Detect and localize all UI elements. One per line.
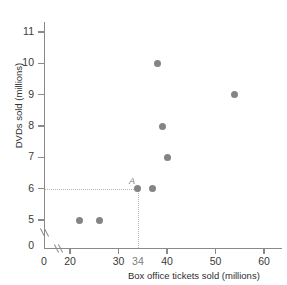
data-point-a: [134, 185, 141, 192]
y-axis-tick-label: 0: [12, 240, 34, 251]
y-axis-tick: [38, 188, 44, 189]
guide-line-vertical: [138, 189, 139, 248]
y-axis-tick: [38, 219, 44, 220]
data-point: [164, 154, 171, 161]
data-point: [231, 91, 238, 98]
data-point: [96, 217, 103, 224]
x-axis-tick-label: 20: [56, 256, 84, 267]
y-axis-tick: [38, 94, 44, 95]
y-axis-tick-label: 5: [12, 214, 34, 225]
x-axis-tick: [263, 248, 264, 254]
data-point: [159, 123, 166, 130]
data-point: [149, 185, 156, 192]
x-axis-tick-label: 50: [202, 256, 230, 267]
y-axis-tick: [38, 157, 44, 158]
y-axis-line: [44, 22, 45, 232]
guide-line-horizontal: [45, 189, 138, 190]
scatter-plot: 05678910110203034405060 A DVDs sold (mil…: [0, 0, 287, 285]
x-axis-tick-label: 60: [250, 256, 278, 267]
data-point-label-a: A: [129, 176, 135, 186]
y-axis-title: DVDs sold (millions): [13, 26, 24, 186]
y-axis-tick: [38, 31, 44, 32]
x-axis-tick: [166, 248, 167, 254]
data-point: [154, 60, 161, 67]
data-point: [76, 217, 83, 224]
x-axis-tick: [69, 248, 70, 254]
x-axis-tick-label: 40: [153, 256, 181, 267]
x-axis-tick-label: 0: [30, 256, 58, 267]
y-axis-tick: [38, 63, 44, 64]
x-axis-tick: [215, 248, 216, 254]
x-axis-annotation-label: 34: [124, 256, 152, 267]
x-axis-line: [44, 248, 282, 249]
x-axis-title: Box office tickets sold (millions): [128, 270, 260, 281]
y-axis-tick: [38, 125, 44, 126]
x-axis-tick: [118, 248, 119, 254]
